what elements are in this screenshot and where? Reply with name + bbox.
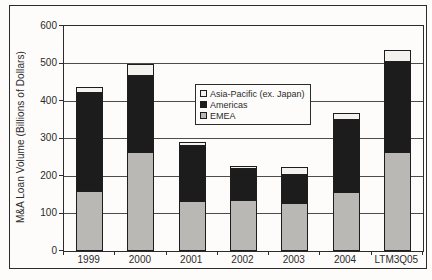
x-tickmark-5 bbox=[319, 251, 320, 255]
bar-segment-emea bbox=[230, 200, 257, 251]
x-tick-label-LTM3Q05: LTM3Q05 bbox=[371, 254, 422, 265]
bar-2001 bbox=[167, 26, 218, 251]
y-tick-label-400: 400 bbox=[10, 95, 57, 106]
x-tick-label-2004: 2004 bbox=[319, 254, 370, 265]
y-tick-label-500: 500 bbox=[10, 57, 57, 68]
bar-segment-americas bbox=[384, 62, 411, 152]
legend-entry-asia-pacific-ex-japan-: Asia-Pacific (ex. Japan) bbox=[200, 88, 305, 99]
x-tick-label-2003: 2003 bbox=[268, 254, 319, 265]
bar-segment-emea bbox=[384, 152, 411, 251]
x-tickmark-2 bbox=[166, 251, 167, 255]
bar-segment-emea bbox=[281, 203, 308, 251]
bar-segment-americas bbox=[76, 93, 103, 191]
bar-segment-asia-pacific-ex-japan- bbox=[281, 167, 308, 175]
x-tick-label-1999: 1999 bbox=[63, 254, 114, 265]
x-tickmark-1 bbox=[114, 251, 115, 255]
bar-segment-americas bbox=[127, 76, 154, 152]
y-tick-label-600: 600 bbox=[10, 20, 57, 31]
bar-2000 bbox=[115, 26, 166, 251]
bar-segment-americas bbox=[179, 146, 206, 201]
x-tick-label-2002: 2002 bbox=[217, 254, 268, 265]
plot-area: Asia-Pacific (ex. Japan)AmericasEMEA bbox=[63, 25, 424, 252]
legend-label: Americas bbox=[210, 100, 248, 110]
bar-segment-americas bbox=[230, 169, 257, 200]
bar-2004 bbox=[320, 26, 371, 251]
y-tick-label-0: 0 bbox=[10, 245, 57, 256]
bar-segment-americas bbox=[281, 175, 308, 204]
scanned-chart-page: M&A Loan Volume (Billions of Dollars) 01… bbox=[0, 0, 432, 280]
chart-frame: M&A Loan Volume (Billions of Dollars) 01… bbox=[9, 5, 427, 269]
x-tick-label-2000: 2000 bbox=[114, 254, 165, 265]
bar-2002 bbox=[218, 26, 269, 251]
x-axis-labels: 199920002001200220032004LTM3Q05 bbox=[63, 254, 422, 265]
legend-entry-americas: Americas bbox=[200, 99, 305, 110]
legend-swatch-icon bbox=[200, 90, 207, 97]
legend-entry-emea: EMEA bbox=[200, 110, 305, 121]
legend-swatch-icon bbox=[200, 112, 207, 119]
bar-segment-americas bbox=[333, 120, 360, 192]
bar-segment-asia-pacific-ex-japan- bbox=[127, 64, 154, 75]
legend-swatch-icon bbox=[200, 101, 207, 108]
x-tickmark-7 bbox=[422, 251, 423, 255]
x-tickmark-3 bbox=[217, 251, 218, 255]
bar-segment-emea bbox=[127, 152, 154, 251]
x-tickmark-6 bbox=[371, 251, 372, 255]
x-tickmark-0 bbox=[63, 251, 64, 255]
bar-2003 bbox=[269, 26, 320, 251]
bar-segment-emea bbox=[76, 191, 103, 251]
x-tick-label-2001: 2001 bbox=[166, 254, 217, 265]
y-tick-label-200: 200 bbox=[10, 170, 57, 181]
y-tick-label-100: 100 bbox=[10, 207, 57, 218]
bar-segment-emea bbox=[333, 192, 360, 251]
legend: Asia-Pacific (ex. Japan)AmericasEMEA bbox=[195, 84, 311, 125]
bars bbox=[64, 26, 423, 251]
bar-segment-emea bbox=[179, 201, 206, 251]
legend-label: EMEA bbox=[210, 111, 236, 121]
x-tickmark-4 bbox=[268, 251, 269, 255]
bar-1999 bbox=[64, 26, 115, 251]
bar-segment-asia-pacific-ex-japan- bbox=[384, 50, 411, 61]
y-tick-label-300: 300 bbox=[10, 132, 57, 143]
legend-label: Asia-Pacific (ex. Japan) bbox=[210, 89, 305, 99]
bar-LTM3Q05 bbox=[372, 26, 423, 251]
